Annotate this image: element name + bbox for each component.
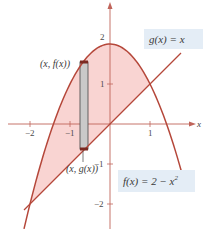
top-point-marker <box>80 61 88 64</box>
x-tick-label: 1 <box>148 128 153 138</box>
graph-plot: −2 −1 1 2 1 −1 −2 x (x, f(x)) (x, g(x)) … <box>0 0 205 231</box>
x-axis-arrow-icon <box>189 122 196 127</box>
bottom-point-label: (x, g(x)) <box>66 163 99 175</box>
f-label-main: f(x) = 2 − x <box>123 175 175 188</box>
top-point-label: (x, f(x)) <box>40 58 71 70</box>
y-tick-label: −2 <box>94 199 104 209</box>
x-tick-label: −1 <box>65 128 75 138</box>
x-tick-label: −2 <box>25 128 35 138</box>
x-axis-label: x <box>196 119 201 129</box>
y-tick-label: 2 <box>100 32 105 42</box>
f-label-exponent: 2 <box>175 174 179 182</box>
g-label: g(x) = x <box>149 33 185 46</box>
f-label: f(x) = 2 − x2 <box>123 174 179 188</box>
y-axis-arrow-icon <box>108 2 113 9</box>
representative-rectangle <box>80 62 88 149</box>
y-tick-label: 1 <box>100 79 105 89</box>
bottom-point-marker <box>80 148 88 151</box>
